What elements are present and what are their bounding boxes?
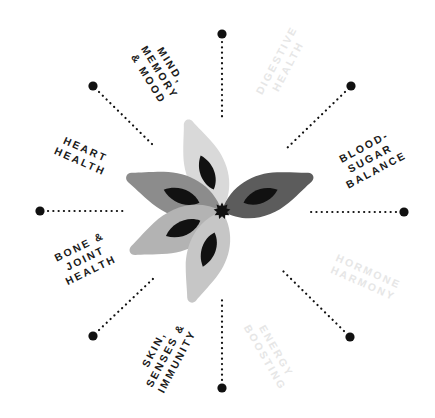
label-energy: ENERGYBOOSTING bbox=[242, 316, 300, 392]
label-blood-sugar: BLOOD-SUGARBALANCE bbox=[332, 126, 409, 191]
spoke-end-dot bbox=[217, 383, 226, 392]
spoke-top bbox=[217, 29, 226, 120]
dotted-line bbox=[99, 276, 156, 330]
label-digestive: DIGESTIVEHEALTH bbox=[253, 24, 311, 103]
spoke-end-dot bbox=[88, 81, 97, 90]
spoke-end-dot bbox=[345, 332, 354, 341]
dotted-line bbox=[285, 92, 345, 150]
spoke-end-dot bbox=[88, 331, 97, 340]
petal-right bbox=[215, 157, 321, 230]
label-bone: BONE &JOINTHEALTH bbox=[52, 229, 118, 287]
spoke-end-dot bbox=[346, 81, 355, 90]
spoke-right bbox=[307, 207, 409, 216]
dotted-line bbox=[282, 270, 344, 331]
spoke-end-dot bbox=[399, 207, 408, 216]
spoke-bottom-left bbox=[88, 276, 156, 341]
spoke-end-dot bbox=[35, 206, 44, 215]
diagram-canvas: MIND,MEMORY& MOODDIGESTIVEHEALTHBLOOD-SU… bbox=[0, 0, 435, 418]
label-hormone: HORMONEHARMONY bbox=[329, 251, 403, 302]
wellness-flower-diagram: MIND,MEMORY& MOODDIGESTIVEHEALTHBLOOD-SU… bbox=[0, 0, 435, 418]
dotted-line bbox=[99, 92, 154, 146]
spoke-end-dot bbox=[217, 29, 226, 38]
spoke-bottom bbox=[217, 296, 226, 393]
label-heart: HEARTHEALTH bbox=[53, 132, 113, 177]
label-mind: MIND,MEMORY& MOOD bbox=[128, 36, 192, 107]
spoke-left bbox=[35, 206, 127, 215]
spoke-top-right bbox=[285, 81, 356, 150]
spoke-top-left bbox=[88, 81, 154, 146]
label-skin: SKIN,SENSES &IMMUNITY bbox=[132, 315, 199, 395]
